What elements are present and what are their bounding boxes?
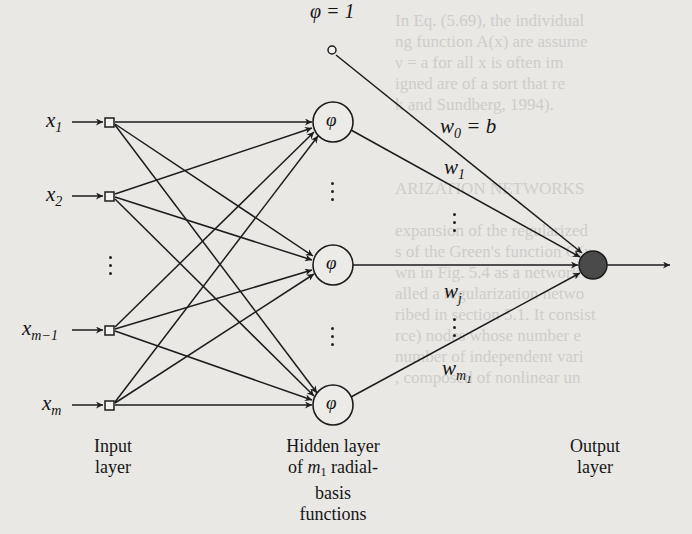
input-hidden-connections [115,122,318,405]
input-node [105,401,114,410]
input-label-xm-1: xm−1 [22,316,58,344]
weight-ellipsis-top [453,213,457,237]
weight-label-w0: w0 = b [440,114,496,142]
output-layer-caption: Output layer [560,436,630,478]
hidden-ellipsis-top [331,182,335,206]
input-node [105,192,114,201]
input-layer-caption: Input layer [78,436,148,478]
bias-label: φ = 1 [310,0,355,23]
input-ellipsis [109,256,113,280]
input-label-x1: x1 [46,108,62,136]
phi-symbol: φ [326,109,337,131]
phi-symbol: φ [326,392,337,414]
weight-label-wj: wj [444,279,462,307]
weight-label-wm1: wm1 [442,356,472,385]
phi-symbol: φ [326,252,337,274]
weight-ellipsis-bottom [453,318,457,342]
hidden-ellipsis-bottom [331,327,335,351]
input-node [105,118,114,127]
weight-label-w1: w1 [444,155,465,183]
output-node [579,251,607,279]
input-node [105,326,114,335]
bias-node [328,46,336,54]
input-label-xm: xm [42,391,61,419]
hidden-layer-caption: Hidden layer of m1 radial- basis functio… [268,436,398,525]
hidden-output-connections [336,55,582,397]
input-label-x2: x2 [46,182,62,210]
